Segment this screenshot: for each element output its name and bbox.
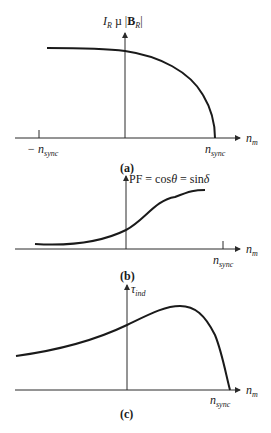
panel-a: IR µ |BR| nm − nsync nsync (a) bbox=[15, 14, 258, 175]
rotor-current-curve bbox=[47, 48, 215, 138]
y-axis-label: τind bbox=[131, 282, 147, 298]
tick-label-sync: nsync bbox=[213, 253, 234, 269]
caption-c: (c) bbox=[120, 407, 133, 421]
x-axis-label: nm bbox=[246, 242, 258, 258]
figure: IR µ |BR| nm − nsync nsync (a) PF = cosθ… bbox=[0, 0, 271, 433]
torque-curve bbox=[16, 306, 230, 390]
tick-label-sync: nsync bbox=[210, 393, 231, 409]
y-axis-label: IR µ |BR| bbox=[102, 14, 143, 30]
tick-label-neg-sync: − nsync bbox=[27, 142, 59, 158]
x-axis-label: nm bbox=[246, 383, 258, 399]
panel-b: PF = cosθ = sinδ nm nsync (b) bbox=[15, 172, 258, 283]
y-axis-label: PF = cosθ = sinδ bbox=[129, 172, 210, 186]
tick-label-sync: nsync bbox=[205, 142, 226, 158]
power-factor-curve bbox=[35, 190, 205, 245]
x-axis-label: nm bbox=[246, 131, 258, 147]
panel-c: τind nm nsync (c) bbox=[15, 282, 258, 421]
caption-b: (b) bbox=[120, 269, 135, 283]
